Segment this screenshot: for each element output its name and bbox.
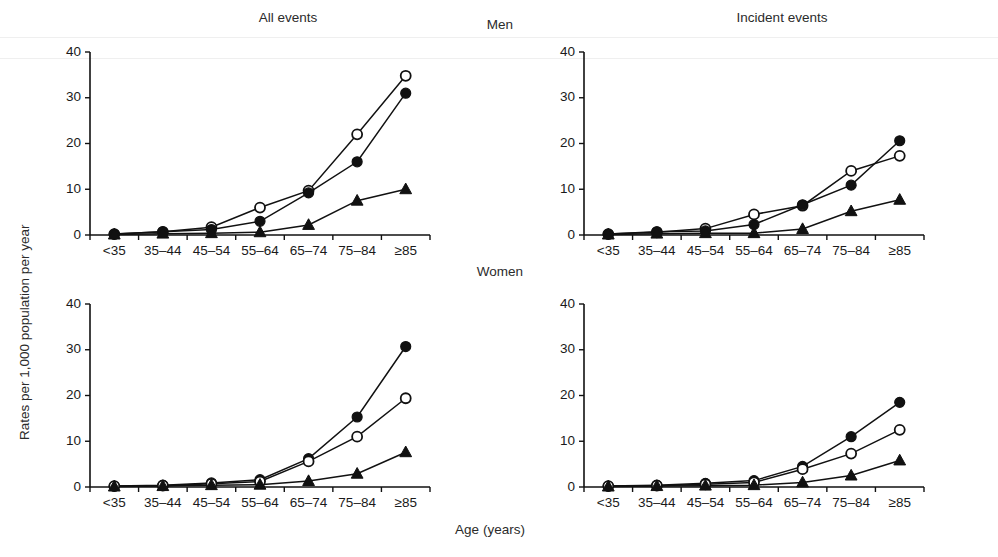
data-point-open-circle <box>352 432 362 442</box>
data-point-filled-circle <box>401 342 411 352</box>
x-tick-label: 75–84 <box>832 243 870 258</box>
x-tick-label: 75–84 <box>338 243 376 258</box>
x-tick-label: 65–74 <box>290 243 328 258</box>
data-point-filled-triangle <box>303 219 315 230</box>
x-tick-label: 75–84 <box>832 495 870 510</box>
x-tick-label: ≥85 <box>888 243 910 258</box>
y-tick-label: 40 <box>66 44 81 59</box>
x-tick-label: 55–64 <box>735 243 773 258</box>
y-tick-label: 40 <box>560 296 575 311</box>
x-tick-label: 35–44 <box>638 243 676 258</box>
y-tick-label: 10 <box>66 433 81 448</box>
y-tick-label: 20 <box>560 387 575 402</box>
x-tick-label: <35 <box>103 495 126 510</box>
data-point-open-circle <box>798 464 808 474</box>
figure-root: All events Incident events Men Women Rat… <box>0 0 998 557</box>
panel-men-incident-events: 010203040<3535–4445–5455–6465–7475–84≥85 <box>550 44 938 265</box>
data-point-filled-circle <box>895 136 905 146</box>
row-title-women: Women <box>440 264 560 279</box>
y-tick-label: 10 <box>560 181 575 196</box>
x-tick-label: <35 <box>597 495 620 510</box>
series-line-open-circle <box>114 398 405 486</box>
x-tick-label: 55–64 <box>241 495 279 510</box>
x-tick-label: 65–74 <box>784 243 822 258</box>
plot-canvas: 010203040<3535–4445–5455–6465–7475–84≥85 <box>550 44 938 265</box>
data-point-open-circle <box>895 151 905 161</box>
y-tick-label: 40 <box>560 44 575 59</box>
data-point-open-circle <box>304 456 314 466</box>
y-tick-label: 20 <box>560 135 575 150</box>
x-tick-label: ≥85 <box>394 495 416 510</box>
y-tick-label: 10 <box>560 433 575 448</box>
data-point-open-circle <box>846 166 856 176</box>
y-tick-label: 0 <box>73 227 81 242</box>
data-point-open-circle <box>749 209 759 219</box>
x-tick-label: <35 <box>103 243 126 258</box>
x-tick-label: 35–44 <box>638 495 676 510</box>
data-point-open-circle <box>401 393 411 403</box>
data-point-filled-triangle <box>400 183 412 194</box>
x-tick-label: 55–64 <box>241 243 279 258</box>
x-axis-label: Age (years) <box>390 522 590 537</box>
y-tick-label: 0 <box>567 227 575 242</box>
data-point-open-circle <box>895 425 905 435</box>
x-tick-label: 45–54 <box>687 243 725 258</box>
y-axis-label: Rates per 1,000 population per year <box>17 225 32 440</box>
y-tick-label: 0 <box>73 479 81 494</box>
x-tick-label: 55–64 <box>735 495 773 510</box>
data-point-filled-triangle <box>351 468 363 479</box>
data-point-open-circle <box>255 203 265 213</box>
data-point-filled-circle <box>304 188 314 198</box>
data-point-open-circle <box>401 71 411 81</box>
panel-women-all-events: 010203040<3535–4445–5455–6465–7475–84≥85 <box>56 296 444 517</box>
x-tick-label: ≥85 <box>888 495 910 510</box>
y-tick-label: 0 <box>567 479 575 494</box>
y-tick-label: 20 <box>66 387 81 402</box>
column-title-all-events: All events <box>178 10 398 25</box>
data-point-filled-circle <box>846 432 856 442</box>
x-tick-label: 65–74 <box>784 495 822 510</box>
data-point-filled-circle <box>352 412 362 422</box>
data-point-open-circle <box>846 449 856 459</box>
column-title-incident-events: Incident events <box>672 10 892 25</box>
data-point-filled-circle <box>798 200 808 210</box>
data-point-filled-circle <box>352 157 362 167</box>
panel-women-incident-events: 010203040<3535–4445–5455–6465–7475–84≥85 <box>550 296 938 517</box>
data-point-filled-triangle <box>894 454 906 465</box>
data-point-open-circle <box>352 129 362 139</box>
data-point-filled-circle <box>846 180 856 190</box>
scan-band-top <box>0 37 998 38</box>
x-tick-label: 45–54 <box>193 495 231 510</box>
x-tick-label: 75–84 <box>338 495 376 510</box>
plot-canvas: 010203040<3535–4445–5455–6465–7475–84≥85 <box>56 44 444 265</box>
x-tick-label: 65–74 <box>290 495 328 510</box>
y-tick-label: 20 <box>66 135 81 150</box>
y-tick-label: 30 <box>560 341 575 356</box>
x-tick-label: 35–44 <box>144 495 182 510</box>
data-point-filled-circle <box>255 216 265 226</box>
x-tick-label: 45–54 <box>687 495 725 510</box>
data-point-filled-circle <box>895 397 905 407</box>
x-tick-label: 35–44 <box>144 243 182 258</box>
x-tick-label: 45–54 <box>193 243 231 258</box>
data-point-filled-triangle <box>400 446 412 457</box>
row-title-men: Men <box>440 17 560 32</box>
y-tick-label: 30 <box>560 89 575 104</box>
x-tick-label: ≥85 <box>394 243 416 258</box>
y-tick-label: 10 <box>66 181 81 196</box>
data-point-filled-triangle <box>894 194 906 205</box>
y-tick-label: 30 <box>66 341 81 356</box>
y-tick-label: 40 <box>66 296 81 311</box>
panel-men-all-events: 010203040<3535–4445–5455–6465–7475–84≥85 <box>56 44 444 265</box>
x-tick-label: <35 <box>597 243 620 258</box>
plot-canvas: 010203040<3535–4445–5455–6465–7475–84≥85 <box>56 296 444 517</box>
data-point-filled-circle <box>401 88 411 98</box>
plot-canvas: 010203040<3535–4445–5455–6465–7475–84≥85 <box>550 296 938 517</box>
y-tick-label: 30 <box>66 89 81 104</box>
